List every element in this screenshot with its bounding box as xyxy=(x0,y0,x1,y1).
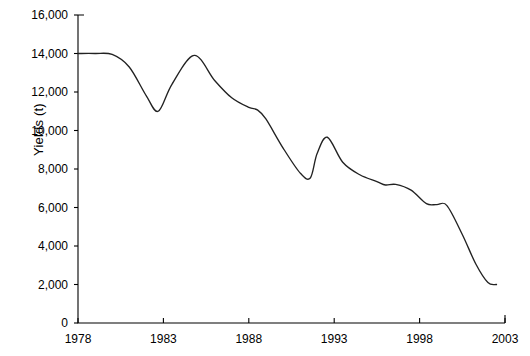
data-line-yields xyxy=(78,53,496,284)
chart-canvas xyxy=(0,0,530,356)
tick-marks xyxy=(74,15,505,323)
axis-lines xyxy=(78,15,505,323)
series-group xyxy=(78,53,496,284)
axes xyxy=(74,15,505,323)
yields-line-chart: Yields (t) 02,0004,0006,0008,00010,00012… xyxy=(0,0,530,356)
